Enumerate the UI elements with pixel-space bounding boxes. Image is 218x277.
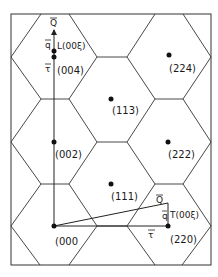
spot-000 xyxy=(52,224,57,229)
spot-111 xyxy=(109,182,114,187)
brillouin-zone-diagram: (000 (002) (004) (111) (113) (220) (222)… xyxy=(0,0,218,277)
trans-point-label: T(00ξ) xyxy=(169,210,199,220)
long-Q-label: Q xyxy=(50,18,57,28)
label-004: (004) xyxy=(57,65,84,76)
label-220: (220) xyxy=(170,234,197,245)
spot-220 xyxy=(166,224,171,229)
trans-Q-label: Q xyxy=(156,195,163,205)
long-q-label: q xyxy=(45,40,51,50)
label-000: (000 xyxy=(55,236,78,247)
point-L xyxy=(52,49,57,54)
label-222: (222) xyxy=(168,149,195,160)
trans-tau-label: τ xyxy=(148,230,153,240)
spot-113 xyxy=(109,97,114,102)
hexagon-grid xyxy=(11,14,211,265)
transverse-Q-vector xyxy=(54,203,168,226)
spot-224 xyxy=(167,53,172,58)
frame xyxy=(11,14,211,265)
label-111: (111) xyxy=(111,191,138,202)
long-tau-label: τ xyxy=(45,64,50,74)
long-point-label: L(00ξ) xyxy=(57,41,86,51)
trans-q-label: q xyxy=(162,211,168,221)
spot-222 xyxy=(166,140,171,145)
spot-002 xyxy=(52,140,57,145)
label-113: (113) xyxy=(112,105,139,116)
label-002: (002) xyxy=(55,149,82,160)
spot-004 xyxy=(52,55,57,60)
label-224: (224) xyxy=(169,63,196,74)
